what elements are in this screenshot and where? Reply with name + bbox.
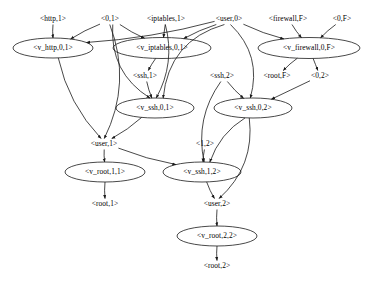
fact-node[interactable]: <user,0> [216,14,243,23]
node-label: <iptables,1> [147,14,185,23]
node-layer: <http,1><0,1><iptables,1><user,0><firewa… [13,14,360,270]
derivation-node[interactable]: <v_ssh,1,2> [163,162,241,182]
graph-edge [71,24,100,39]
node-label: <root,F> [264,71,291,80]
derivation-node[interactable]: <v_root,2,2> [177,226,257,246]
fact-node[interactable]: <0,1> [101,14,119,23]
graph-edge [104,25,119,139]
graph-edge [184,25,217,39]
graph-edge [230,25,253,99]
derivation-node[interactable]: <v_iptables,0,1> [113,38,211,59]
graph-edge [163,25,224,99]
node-label: <root,1> [92,199,119,208]
graph-edge [207,182,215,199]
node-label: <v_iptables,0,1> [136,43,187,52]
node-label: <v_ssh,0,1> [136,103,173,112]
fact-node[interactable]: <1,2> [196,139,214,148]
fact-node[interactable]: <iptables,1> [147,14,185,23]
node-label: <user,1> [91,139,118,148]
node-label: <user,0> [216,14,243,23]
node-label: <0,F> [333,14,352,23]
node-label: <v_firewall,0,F> [283,43,335,52]
node-label: <v_http,0,1> [33,43,73,52]
graph-edge [227,82,243,99]
derivation-node[interactable]: <v_root,1,1> [65,162,145,182]
node-label: <ssh,1> [133,71,157,80]
graph-edge [283,58,297,70]
graph-edge [321,25,336,38]
graph-edge [148,58,155,70]
graph-edge [147,82,152,99]
fact-node[interactable]: <ssh,1> [133,71,157,80]
node-label: <http,1> [40,14,66,23]
graph-edge [112,117,142,138]
node-label: <0,1> [101,14,119,23]
graph-edge [104,150,105,163]
fact-node[interactable]: <ssh,2> [210,71,234,80]
graph-edge [210,118,245,162]
graph-canvas: <http,1><0,1><iptables,1><user,0><firewa… [0,0,370,285]
node-label: <0,2> [311,71,329,80]
fact-node[interactable]: <user,2> [204,199,231,208]
graph-edge [271,81,310,99]
node-label: <v_ssh,0,2> [234,103,271,112]
graph-edge [313,58,318,70]
fact-node[interactable]: <root,F> [264,71,291,80]
graph-edge [163,25,165,38]
derivation-node[interactable]: <v_ssh,0,2> [214,98,292,118]
graph-edge [58,58,101,139]
graph-edge [156,25,169,99]
fact-node[interactable]: <0,F> [333,14,352,23]
fact-node[interactable]: <0,2> [311,71,329,80]
fact-node[interactable]: <http,1> [40,14,66,23]
derivation-node[interactable]: <v_firewall,0,F> [258,38,360,59]
node-label: <v_root,1,1> [85,167,125,176]
fact-node[interactable]: <firewall,F> [269,14,307,23]
graph-edge [292,25,302,38]
graph-edge [118,148,176,164]
fact-node[interactable]: <root,1> [92,199,119,208]
node-label: <root,2> [204,261,231,270]
graph-edge [113,25,150,99]
derivation-node[interactable]: <v_http,0,1> [13,38,93,58]
attack-graph-diagram: <http,1><0,1><iptables,1><user,0><firewa… [0,0,370,285]
graph-edge [120,25,145,39]
node-label: <1,2> [196,139,214,148]
node-label: <v_ssh,1,2> [183,167,220,176]
graph-edge [219,118,250,199]
node-label: <v_root,2,2> [197,231,237,240]
derivation-node[interactable]: <v_ssh,0,1> [116,98,194,118]
node-label: <user,2> [204,199,231,208]
node-label: <ssh,2> [210,71,234,80]
graph-edge [86,21,214,42]
graph-edge [243,24,283,39]
fact-node[interactable]: <root,2> [204,261,231,270]
fact-node[interactable]: <user,1> [91,139,118,148]
node-label: <firewall,F> [269,14,307,23]
